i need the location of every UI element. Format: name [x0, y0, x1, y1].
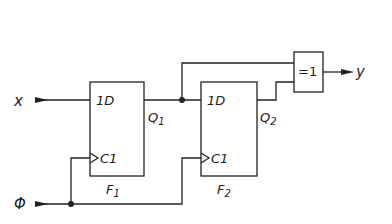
f2-clock-triangle-icon — [201, 153, 209, 163]
circuit-diagram: x Φ 1D C1 Q1 F1 1D C1 Q2 F2 =1 y — [0, 0, 392, 224]
f1-name: F1 — [106, 182, 120, 199]
f1-clock-triangle-icon — [90, 153, 98, 163]
xor-gate: =1 — [294, 52, 323, 92]
output-y-arrow-icon — [341, 69, 354, 75]
f2-c-pin: C1 — [211, 151, 228, 166]
input-x-label: x — [13, 92, 23, 110]
junction-dot — [68, 201, 74, 207]
f1-q-label: Q1 — [148, 110, 165, 127]
f2-q-label: Q2 — [260, 110, 277, 127]
wire-q2-to-xor — [257, 82, 294, 100]
xor-label: =1 — [298, 64, 317, 79]
f1-d-pin: 1D — [96, 93, 114, 108]
input-phi-label: Φ — [14, 195, 26, 213]
f1-c-pin: C1 — [100, 151, 117, 166]
junction-dot — [179, 97, 185, 103]
f2-name: F2 — [217, 182, 231, 199]
output-y-label: y — [355, 63, 366, 81]
wire-phi-to-f1 — [71, 158, 90, 204]
f2-d-pin: 1D — [207, 93, 225, 108]
